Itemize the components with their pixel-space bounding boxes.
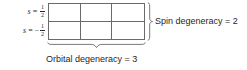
spin-equals-sign: = [33, 7, 37, 16]
spin-equals-sign: = [28, 26, 32, 35]
fraction-denominator: 2 [40, 31, 45, 38]
fraction-numerator: 1 [40, 23, 45, 31]
spin-variable-symbol: s [28, 7, 31, 16]
fraction-denominator: 2 [40, 12, 45, 19]
spin-label-down: s = − 1 2 [0, 24, 45, 36]
orbital-degeneracy-label: Orbital degeneracy = 3 [46, 53, 137, 65]
state-cell [112, 22, 144, 40]
spin-degeneracy-brace-icon [147, 2, 154, 41]
orbital-degeneracy-brace-icon [47, 42, 146, 49]
state-cell [112, 4, 144, 22]
state-grid [48, 3, 145, 40]
fraction-one-half-up: 1 2 [40, 4, 45, 18]
fraction-numerator: 1 [40, 4, 45, 12]
spin-sign-down: − [34, 26, 39, 35]
spin-label-up: s = 1 2 [0, 5, 45, 17]
state-cell [49, 22, 81, 40]
state-cell [81, 4, 113, 22]
state-cell [49, 4, 81, 22]
fraction-one-half-down: 1 2 [40, 23, 45, 37]
spin-variable-symbol: s [23, 26, 26, 35]
spin-degeneracy-label: Spin degeneracy = 2 [155, 15, 238, 27]
degeneracy-diagram: s = 1 2 s = − 1 2 Spin degeneracy = 2 [0, 0, 247, 70]
state-cell [81, 22, 113, 40]
